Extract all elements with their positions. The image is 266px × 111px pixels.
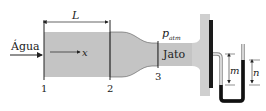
jet-label: Jato — [162, 48, 185, 61]
pressure-label: p — [162, 27, 169, 40]
pressure-sub-label: atm — [169, 34, 181, 41]
section-2-label: 2 — [107, 83, 113, 94]
nozzle — [110, 32, 158, 77]
section-1-label: 1 — [41, 83, 47, 94]
plate-front — [209, 20, 213, 88]
plate-back — [192, 14, 210, 96]
m-label: m — [230, 65, 239, 76]
n-label: n — [253, 67, 259, 78]
inlet-label: Água — [10, 39, 40, 53]
section-3-label: 3 — [155, 71, 161, 82]
x-axis-label: x — [82, 47, 88, 58]
pipe-section — [44, 32, 110, 77]
jet-plate-diagram: Água L x 1 2 3 p atm Jato m n — [0, 0, 266, 111]
length-label: L — [71, 9, 79, 22]
